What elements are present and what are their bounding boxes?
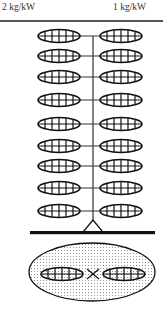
left-blade [38, 118, 80, 131]
left-blade [38, 50, 80, 63]
left-blade [38, 30, 80, 43]
top-left-blade [41, 268, 83, 281]
left-blade [38, 71, 80, 84]
left-blade [38, 160, 80, 173]
stalk-group [30, 30, 155, 235]
top-right-blade [103, 268, 145, 281]
top-view-group [29, 243, 155, 301]
right-blade [100, 182, 142, 195]
right-blade [100, 118, 142, 131]
right-blade [100, 205, 142, 218]
right-blade [100, 160, 142, 173]
ground-bar [30, 231, 155, 234]
left-blade [38, 140, 80, 153]
right-blade [100, 94, 142, 107]
left-blade [38, 205, 80, 218]
base-triangle [83, 220, 103, 232]
left-blade [38, 182, 80, 195]
right-blade [100, 50, 142, 63]
left-blade [38, 94, 80, 107]
right-blade [100, 30, 142, 43]
right-blade [100, 140, 142, 153]
right-blade [100, 71, 142, 84]
blade-stalk-diagram [0, 0, 163, 323]
